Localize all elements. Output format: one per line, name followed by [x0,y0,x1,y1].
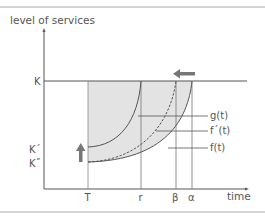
x-tick-alpha: α [188,192,195,203]
y-axis-label: level of services [10,14,95,26]
y-axis-arrowhead [43,28,46,32]
x-tick-t: T [84,192,92,203]
arrow-left-icon [173,69,195,79]
y-tick-k-prime: K´ [29,144,41,155]
y-tick-k-double-prime: K˝ [29,158,41,169]
service-level-diagram: level of services time K K´ K˝ T r β α g… [0,0,265,221]
label-f: f(t) [210,142,225,153]
x-axis-label: time [227,190,251,202]
y-tick-k: K [34,76,41,87]
x-tick-r: r [139,192,144,203]
x-tick-beta: β [172,192,178,203]
arrow-up-icon [76,143,86,162]
label-f-prime: f´(t) [210,125,230,136]
label-g: g(t) [210,110,228,121]
